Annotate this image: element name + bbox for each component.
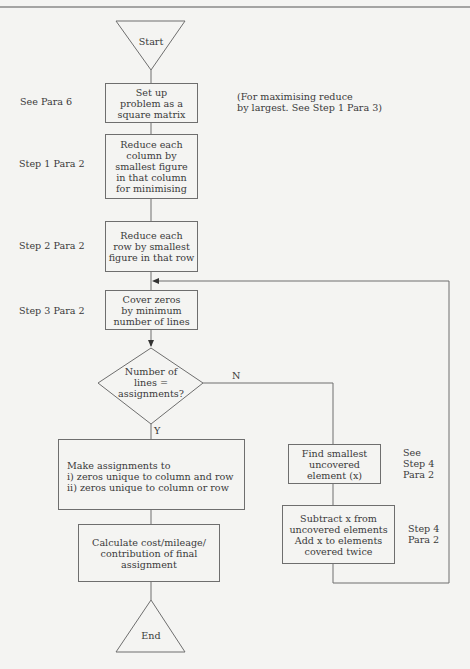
setup-box: Set up problem as a square matrix — [105, 83, 198, 123]
connector-no — [203, 383, 333, 444]
no-branch-label: N — [232, 370, 240, 381]
calculate-box: Calculate cost/mileage/ contribution of … — [78, 524, 220, 582]
decision-label: Number of lines = assignments? — [111, 366, 191, 399]
maximising-note: (For maximising reduce by largest. See S… — [237, 91, 382, 113]
ref-reduce-rows: Step 2 Para 2 — [19, 240, 85, 251]
flowchart-page: Start Set up problem as a square matrix … — [0, 0, 470, 669]
ref-find-smallest: See Step 4 Para 2 — [403, 447, 434, 480]
arrowhead-decision — [148, 340, 154, 347]
end-terminator — [116, 600, 185, 652]
end-label: End — [126, 630, 176, 641]
reduce-columns-box: Reduce each column by smallest figure in… — [105, 134, 198, 199]
arrowhead-loop — [152, 278, 159, 284]
reduce-rows-box: Reduce each row by smallest figure in th… — [105, 221, 198, 272]
find-smallest-box: Find smallest uncovered element (x) — [288, 444, 381, 484]
make-assignments-box: Make assignments to i) zeros unique to c… — [58, 439, 245, 510]
ref-reduce-columns: Step 1 Para 2 — [19, 158, 85, 169]
subtract-box: Subtract x from uncovered elements Add x… — [282, 505, 395, 564]
ref-cover-zeros: Step 3 Para 2 — [19, 305, 85, 316]
ref-setup: See Para 6 — [20, 96, 72, 107]
start-label: Start — [126, 36, 176, 47]
yes-branch-label: Y — [154, 425, 160, 436]
cover-zeros-box: Cover zeros by minimum number of lines — [105, 290, 198, 330]
ref-subtract: Step 4 Para 2 — [408, 523, 439, 545]
